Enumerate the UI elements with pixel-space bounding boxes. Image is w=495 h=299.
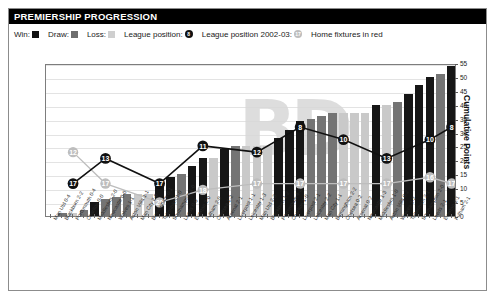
legend-position-label: League position: (124, 30, 183, 39)
svg-text:13: 13 (102, 155, 110, 162)
y-axis-tick: 55 (460, 61, 467, 67)
y-axis-tick: 45 (460, 89, 467, 95)
y-axis-tick-mark (455, 175, 458, 176)
legend-item-draw: Draw: (48, 30, 78, 39)
svg-text:10: 10 (340, 136, 348, 143)
league-position-prev-badge-icon: 17 (294, 30, 302, 38)
x-axis-tick (451, 214, 452, 218)
y-axis-tick-mark (455, 147, 458, 148)
svg-text:17: 17 (383, 180, 391, 187)
y-axis-tick-mark (455, 92, 458, 93)
x-axis-tick (256, 214, 257, 218)
y-axis-tick-mark (455, 189, 458, 190)
position-marker-current: 10 (338, 134, 349, 145)
position-marker-current: 13 (381, 153, 392, 164)
x-axis-tick (202, 214, 203, 218)
y-axis-tick-mark (455, 78, 458, 79)
position-marker-current: 12 (252, 147, 263, 158)
position-marker-prev: 17 (338, 178, 348, 188)
position-marker-prev: 17 (446, 178, 456, 188)
svg-text:12: 12 (253, 149, 261, 156)
x-axis-tick (278, 214, 279, 218)
x-axis-tick (159, 214, 160, 218)
x-axis-tick (386, 214, 387, 218)
svg-text:17: 17 (448, 180, 456, 187)
svg-text:17: 17 (102, 180, 110, 187)
x-axis-tick (137, 214, 138, 218)
position-marker-prev: 17 (381, 178, 391, 188)
legend-home-note: Home fixtures in red (311, 30, 383, 39)
y-axis-tick-mark (455, 106, 458, 107)
x-axis-tick (321, 214, 322, 218)
y-axis-tick: 10 (460, 186, 467, 192)
svg-text:13: 13 (383, 155, 391, 162)
y-axis-title: Cumulative Points (462, 95, 472, 169)
y-axis-tick-mark (455, 134, 458, 135)
svg-text:8: 8 (450, 124, 454, 131)
x-axis-tick (213, 214, 214, 218)
svg-text:11: 11 (199, 143, 207, 150)
position-marker-prev: 17 (100, 178, 110, 188)
position-marker-current: 11 (197, 140, 208, 151)
page-title: PREMIERSHIP PROGRESSION (9, 9, 486, 24)
screenshot-root: PREMIERSHIP PROGRESSION Win: Draw: Loss:… (0, 0, 495, 299)
legend-item-league-position-2002-03: League position 2002-03: 17 (202, 30, 302, 39)
loss-swatch-icon (108, 31, 115, 38)
legend-item-home-note: Home fixtures in red (311, 30, 383, 39)
y-axis-tick: 50 (460, 75, 467, 81)
position-marker-current: 10 (425, 134, 436, 145)
premiership-progression-card: PREMIERSHIP PROGRESSION Win: Draw: Loss:… (8, 8, 487, 291)
x-axis-labels: Man Utd 0-4Blackburn 2-2Portsmouth 0-4Ch… (45, 218, 456, 290)
y-axis-tick: 15 (460, 172, 467, 178)
x-axis-tick (375, 214, 376, 218)
svg-text:8: 8 (298, 124, 302, 131)
x-axis-tick (397, 214, 398, 218)
svg-text:17: 17 (253, 180, 261, 187)
x-axis-tick (148, 214, 149, 218)
x-axis-tick (267, 214, 268, 218)
svg-text:12: 12 (69, 149, 77, 156)
position-marker-current: 13 (100, 153, 111, 164)
position-marker-current: 17 (68, 178, 79, 189)
win-swatch-icon (32, 31, 39, 38)
svg-text:10: 10 (426, 136, 434, 143)
x-axis-tick (440, 214, 441, 218)
svg-text:17: 17 (156, 180, 164, 187)
y-axis-tick-mark (455, 120, 458, 121)
legend-draw-label: Draw: (48, 30, 69, 39)
legend-loss-label: Loss: (87, 30, 106, 39)
x-axis-tick (332, 214, 333, 218)
position-marker-prev: 12 (68, 147, 78, 157)
x-axis-tick (94, 214, 95, 218)
svg-text:17: 17 (340, 180, 348, 187)
svg-text:17: 17 (69, 180, 77, 187)
position-marker-prev: 17 (252, 178, 262, 188)
x-axis-tick (83, 214, 84, 218)
y-axis-tick-mark (455, 64, 458, 65)
y-axis-tick-mark (455, 161, 458, 162)
position-marker-current: 8 (446, 122, 456, 133)
legend-item-loss: Loss: (87, 30, 115, 39)
legend-win-label: Win: (14, 30, 30, 39)
chart-legend: Win: Draw: Loss: League position: 8 Leag… (14, 27, 392, 41)
position-marker-current: 8 (295, 122, 306, 133)
svg-text:18: 18 (199, 187, 207, 194)
legend-position-prev-label: League position 2002-03: (202, 30, 292, 39)
legend-item-win: Win: (14, 30, 39, 39)
position-line-current (73, 127, 452, 184)
draw-swatch-icon (71, 31, 78, 38)
position-marker-prev: 16 (425, 172, 435, 182)
svg-text:16: 16 (426, 174, 434, 181)
league-position-badge-icon: 8 (185, 30, 193, 38)
legend-item-league-position: League position: 8 (124, 30, 193, 39)
position-marker-current: 17 (154, 178, 165, 189)
position-marker-prev: 18 (198, 185, 208, 195)
